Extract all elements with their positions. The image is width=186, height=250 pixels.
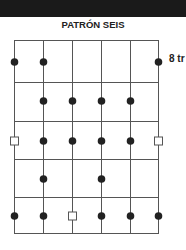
- fret-position-label: 8 tr: [169, 53, 185, 64]
- note-dot: [69, 97, 77, 105]
- note-dot: [69, 137, 77, 145]
- note-dot: [40, 97, 48, 105]
- note-dot: [40, 137, 48, 145]
- note-dot: [155, 58, 163, 66]
- root-note-square: [11, 137, 19, 145]
- note-dot: [127, 212, 135, 220]
- note-dot: [40, 212, 48, 220]
- note-dot: [98, 97, 106, 105]
- note-dot: [98, 175, 106, 183]
- note-dot: [98, 137, 106, 145]
- note-dot: [127, 137, 135, 145]
- note-dot: [40, 175, 48, 183]
- note-dot: [11, 58, 19, 66]
- root-note-square: [155, 137, 163, 145]
- root-notes: [11, 137, 163, 220]
- note-dot: [127, 97, 135, 105]
- note-dot: [155, 212, 163, 220]
- fretboard-diagram: [0, 0, 186, 250]
- note-dot: [11, 212, 19, 220]
- note-dot: [98, 212, 106, 220]
- note-dot: [40, 58, 48, 66]
- root-note-square: [69, 212, 77, 220]
